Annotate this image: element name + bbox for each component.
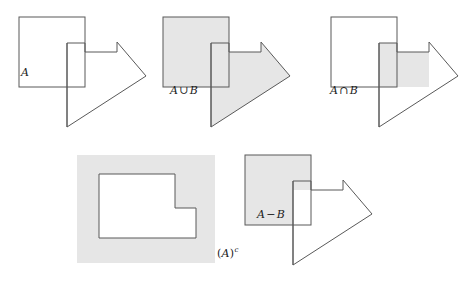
set-operations-figure: A A∪B A∩B <box>0 0 461 283</box>
union-symbol: ∪ <box>178 84 190 97</box>
difference-shade-notch <box>293 181 311 190</box>
minus-symbol: − <box>265 208 277 221</box>
label-a-minus-b: A−B <box>257 208 285 221</box>
panel-sets-a-and-b: A <box>0 0 160 140</box>
label-a-intersect-b: A∩B <box>330 84 358 97</box>
set-b-polygon <box>67 42 146 127</box>
union-shade-a <box>163 17 229 87</box>
difference-outline-b <box>293 180 372 265</box>
panel-a-minus-b: A−B <box>230 140 430 283</box>
intersection-shade <box>379 43 429 87</box>
intersection-symbol: ∩ <box>338 84 350 97</box>
label-a-union-b: A∪B <box>170 84 198 97</box>
label-set-a: A <box>21 66 29 79</box>
panel-a-intersect-b: A∩B <box>300 0 461 140</box>
panel-a-union-b: A∪B <box>150 0 310 140</box>
